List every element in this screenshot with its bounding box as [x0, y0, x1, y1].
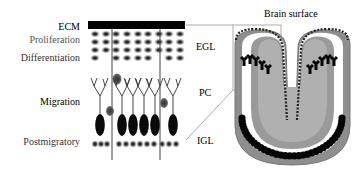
folium-egl-layer [258, 39, 327, 142]
granule-cells [91, 31, 185, 61]
granule-cell [112, 39, 121, 45]
purkinje-cell-body [168, 114, 178, 136]
ecm-bar [88, 21, 185, 29]
granule-cell [155, 39, 164, 45]
granule-cell [134, 55, 143, 61]
purkinje-cell-body [139, 114, 149, 136]
granule-cell [144, 31, 153, 37]
granule-cell [112, 55, 121, 61]
granule-cell [144, 47, 153, 53]
granule-cell [144, 39, 153, 45]
purkinje-dendrite [164, 78, 181, 114]
granule-cell [102, 39, 111, 45]
igl-granule-cell [122, 140, 129, 147]
purkinje-cell-body [95, 114, 105, 136]
igl-granule-cells [91, 140, 179, 147]
purkinje-cell-body [150, 114, 160, 136]
purkinje-cell-body [117, 114, 127, 136]
granule-cell [165, 39, 174, 45]
igl-granule-cell [115, 140, 122, 147]
igl-granule-cell [129, 140, 136, 147]
igl-granule-cell [172, 140, 179, 147]
igl-granule-cell [103, 140, 110, 147]
purkinje-cell-body [128, 114, 138, 136]
igl-granule-cell [136, 140, 143, 147]
folium-purkinje-cell [338, 114, 345, 121]
granule-cell [123, 55, 132, 61]
igl-granule-cell [165, 140, 172, 147]
granule-cell [165, 55, 174, 61]
granule-cell [112, 31, 121, 37]
migrating-cell [160, 98, 168, 108]
granule-cell [91, 39, 100, 45]
granule-cell [123, 39, 132, 45]
igl-granule-cell [150, 140, 157, 147]
igl-granule-cell [143, 140, 150, 147]
purkinje-cells [91, 78, 181, 136]
connector-bottom [186, 90, 233, 140]
cerebellar-folium [235, 29, 350, 165]
granule-cell [176, 39, 185, 45]
granule-cell [102, 31, 111, 37]
granule-cell [155, 31, 164, 37]
granule-cell [112, 47, 121, 53]
granule-cell [91, 55, 100, 61]
granule-cell [165, 47, 174, 53]
granule-cell [102, 47, 111, 53]
granule-cell [155, 47, 164, 53]
granule-cell [176, 31, 185, 37]
purkinje-dendrite [91, 78, 108, 114]
cerebellum-development-diagram [0, 0, 355, 177]
granule-cell [91, 47, 100, 53]
granule-cell [123, 31, 132, 37]
granule-cell [123, 47, 132, 53]
granule-cell [144, 55, 153, 61]
granule-cell [134, 47, 143, 53]
granule-cell [134, 31, 143, 37]
granule-cell [91, 31, 100, 37]
granule-cell [165, 31, 174, 37]
granule-cell [176, 47, 185, 53]
migrating-cell [106, 106, 114, 116]
igl-granule-cell [158, 140, 165, 147]
granule-cell [134, 39, 143, 45]
granule-cell [176, 55, 185, 61]
